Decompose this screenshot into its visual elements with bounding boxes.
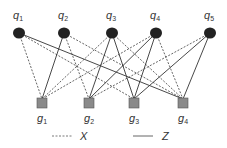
node-g1 bbox=[37, 98, 47, 108]
edge-q2-g2-x-dashed bbox=[64, 33, 89, 99]
generator-nodes-layer: g1g2g3g4 bbox=[37, 98, 188, 125]
label-q3: q3 bbox=[106, 9, 116, 22]
edge-q2-g4-x-dashed bbox=[64, 33, 183, 99]
edge-q4-g4-x-dashed bbox=[156, 33, 183, 99]
edge-q3-g2-z-solid bbox=[89, 33, 112, 99]
label-g2: g2 bbox=[84, 112, 94, 125]
qubit-nodes-layer: q1q2q3q4q5 bbox=[13, 9, 216, 39]
edge-q1-g1-x-dashed bbox=[19, 33, 42, 99]
label-q4: q4 bbox=[150, 9, 160, 22]
legend-z-label: Z bbox=[161, 130, 170, 142]
edge-q5-g2-x-dashed bbox=[89, 33, 210, 99]
node-q5 bbox=[204, 28, 216, 39]
node-q4 bbox=[150, 28, 162, 39]
label-g4: g4 bbox=[178, 112, 188, 125]
node-q3 bbox=[106, 28, 118, 39]
legend: X Z bbox=[52, 130, 170, 142]
label-g3: g3 bbox=[129, 112, 139, 125]
label-q1: q1 bbox=[13, 9, 23, 22]
bipartite-graph-diagram: q1q2q3q4q5 g1g2g3g4 X Z bbox=[0, 0, 227, 148]
node-g2 bbox=[84, 98, 94, 108]
label-q2: q2 bbox=[58, 9, 68, 22]
node-q2 bbox=[58, 28, 70, 39]
edge-q5-g4-z-solid bbox=[183, 33, 210, 99]
label-g1: g1 bbox=[37, 112, 47, 125]
legend-x-label: X bbox=[79, 130, 88, 142]
edges-layer bbox=[19, 33, 210, 99]
node-q1 bbox=[13, 28, 25, 39]
label-q5: q5 bbox=[204, 9, 214, 22]
node-g4 bbox=[178, 98, 188, 108]
node-g3 bbox=[129, 98, 139, 108]
